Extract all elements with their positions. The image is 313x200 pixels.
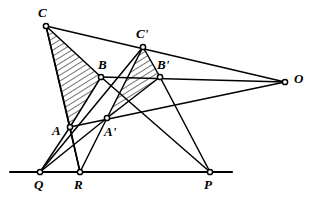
point-label-bp: B': [157, 58, 169, 71]
geometry-figure: CC'BB'AA'OQRP: [0, 0, 313, 200]
lines-layer: [10, 26, 285, 172]
point-label-p: P: [204, 178, 212, 191]
vertex-marker-b: [98, 74, 103, 79]
point-label-r: R: [74, 178, 83, 191]
vertex-marker-q: [37, 169, 42, 174]
vertex-marker-cp: [140, 44, 145, 49]
line-ap-to-r: [80, 118, 107, 172]
vertex-marker-o: [282, 79, 287, 84]
line-bp-to-p: [160, 77, 210, 172]
vertex-marker-ap: [104, 115, 109, 120]
point-label-q: Q: [34, 178, 43, 191]
triangle-abc: [46, 26, 101, 127]
vertex-marker-a: [67, 124, 72, 129]
point-label-o: O: [294, 72, 303, 85]
vertex-marker-c: [43, 23, 48, 28]
point-label-cp: C': [136, 27, 148, 40]
point-label-b: B: [98, 58, 107, 71]
ray-a-to-o: [70, 82, 285, 127]
point-label-c: C: [38, 6, 47, 19]
line-b-to-p: [101, 77, 210, 172]
vertex-marker-bp: [157, 74, 162, 79]
point-label-ap: A': [104, 125, 116, 138]
point-label-a: A: [52, 124, 61, 137]
figure-canvas: [0, 0, 313, 200]
vertex-marker-r: [77, 169, 82, 174]
vertex-marker-p: [207, 169, 212, 174]
